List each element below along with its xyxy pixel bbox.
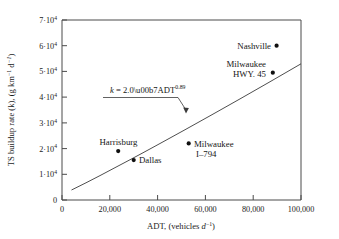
label-harrisburg: Harrisburg [100, 137, 139, 147]
scatter-plot: 0 1·104 2·104 3·104 4·104 5·104 6·104 7·… [0, 0, 339, 239]
x-tick-label-1: 20,000 [99, 205, 122, 214]
data-point-nashville [275, 44, 279, 48]
x-tick-label-0: 0 [60, 205, 64, 214]
label-nashville: Nashville [237, 41, 271, 51]
y-tick-label-0: 0 [53, 196, 57, 205]
label-milwaukee-i794-line1: Milwaukee [194, 139, 234, 149]
label-milwaukee-hwy45-line1: Milwaukee [226, 59, 266, 69]
x-axis-title: ADT, (vehicles d−1) [147, 221, 215, 231]
label-milwaukee-hwy45-line2: HWY. 45 [233, 69, 267, 79]
label-dallas: Dallas [139, 155, 162, 165]
data-point-milwaukee-hwy45 [271, 71, 275, 75]
fit-equation-text: k = 2.0\u00b7ADT0.89 [110, 84, 186, 95]
y-axis-title: TS buildup rate (k), (g km−1 d−1) [6, 54, 16, 167]
chart-figure: 0 1·104 2·104 3·104 4·104 5·104 6·104 7·… [0, 0, 339, 239]
data-point-milwaukee-i794 [187, 141, 191, 145]
x-tick-label-5: 100,000 [288, 205, 315, 214]
label-milwaukee-i794-line2: I–794 [196, 149, 217, 159]
x-tick-label-3: 60,000 [194, 205, 217, 214]
data-point-dallas [132, 158, 136, 162]
x-tick-label-4: 80,000 [242, 205, 265, 214]
data-point-harrisburg [116, 149, 120, 153]
x-tick-label-2: 40,000 [146, 205, 169, 214]
